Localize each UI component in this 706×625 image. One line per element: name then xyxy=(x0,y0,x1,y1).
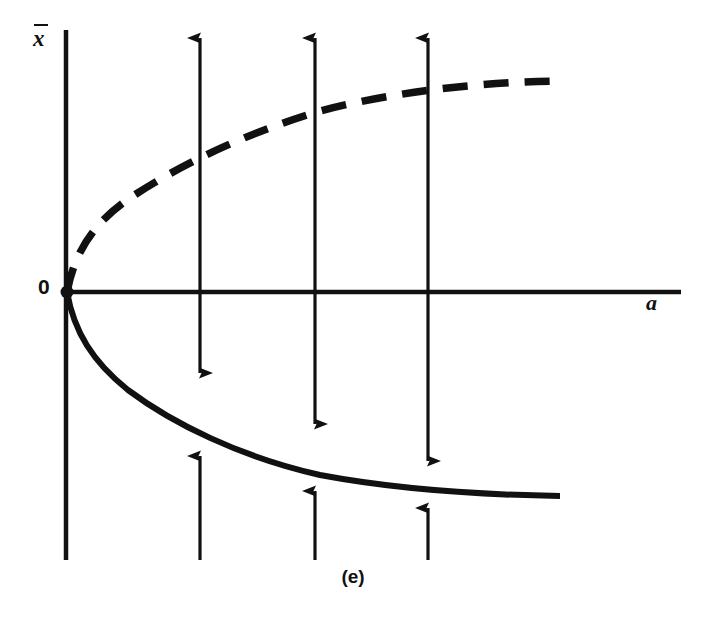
diagram-canvas xyxy=(0,0,706,625)
flow-arrows-middle xyxy=(200,113,428,461)
x-axis-label: a xyxy=(646,292,657,314)
y-axis-label: x xyxy=(33,24,48,50)
figure-caption: (e) xyxy=(0,566,706,588)
upper-branch-unstable-curve xyxy=(67,81,558,292)
bifurcation-diagram-figure: x a 0 (e) xyxy=(0,0,706,625)
y-axis-label-text: x xyxy=(33,26,45,51)
origin-label: 0 xyxy=(38,276,50,297)
